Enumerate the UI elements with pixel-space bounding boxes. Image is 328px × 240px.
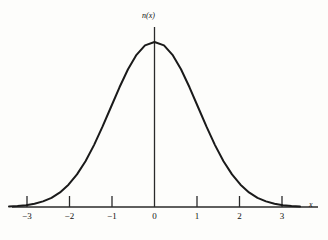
- x-tick-label-1: 1: [186, 211, 208, 221]
- x-tick-label-0: 0: [144, 211, 166, 221]
- x-tick-label--2: −2: [59, 211, 81, 221]
- y-axis-title: n(x): [142, 11, 155, 20]
- x-tick-label-3: 3: [271, 211, 293, 221]
- x-tick-label--1: −1: [101, 211, 123, 221]
- x-tick-label-2: 2: [229, 211, 251, 221]
- normal-distribution-plot: [0, 0, 328, 240]
- x-axis-title: x: [309, 200, 313, 209]
- normal-curve-figure: n(x) x −3 −2 −1 0 1 2 3: [0, 0, 328, 240]
- x-tick-label--3: −3: [16, 211, 38, 221]
